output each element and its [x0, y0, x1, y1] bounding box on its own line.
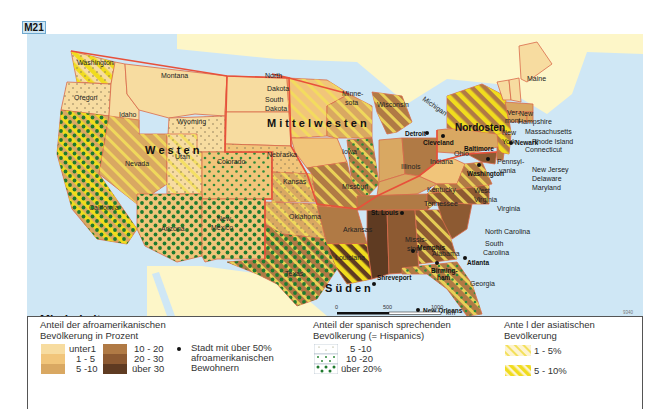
legend-hispanic-title-1: Anteil der spanisch sprechenden: [313, 319, 451, 330]
label-arkansas: Arkansas: [343, 226, 373, 233]
region-label-nordosten: Nordosten: [455, 122, 505, 133]
label-maine: Maine: [527, 75, 546, 82]
label-massachusetts: Massachusetts: [525, 128, 572, 135]
label-arizona: Arizona: [161, 225, 185, 232]
legend-swatch-afro-4: [103, 354, 127, 364]
label-oklahoma: Oklahoma: [289, 213, 321, 220]
label-virginia: Virginia: [497, 205, 520, 213]
city-marker-newark: [509, 141, 513, 145]
label-pennsylvania-1: Pennsyl-: [497, 158, 525, 166]
city-marker-baltimore: [486, 157, 490, 161]
region-label-sueden: S ü d e n: [325, 282, 371, 294]
label-nevada: Nevada: [125, 160, 149, 167]
region-label-westen: W e s t e n: [145, 144, 200, 156]
label-north-dakota-1: North: [265, 72, 282, 79]
map-code: 9340: [623, 310, 634, 315]
label-mississippi-1: Missis-: [405, 236, 427, 243]
figure-label: M21: [22, 21, 46, 34]
label-maryland: Maryland: [532, 184, 561, 192]
label-oregon: Oregon: [74, 94, 97, 102]
label-wisconsin: Wisconsin: [377, 101, 409, 108]
label-utah: Utah: [175, 153, 190, 160]
city-label-memphis: Memphis: [417, 244, 446, 252]
label-alabama: Alabama: [432, 250, 460, 257]
label-iowa: Iowa: [342, 148, 357, 155]
scale-tick-1000: 1000: [431, 304, 443, 310]
label-north-dakota-2: Dakota: [267, 85, 289, 92]
map-canvas: W e s t e n M i t t e l w e s t e n S ü …: [27, 34, 643, 316]
legend-asian-title-2: Bevölkerung: [504, 330, 557, 341]
label-montana: Montana: [161, 72, 188, 79]
city-label-shreveport: Shreveport: [377, 274, 412, 282]
legend-swatch-afro-3: [103, 344, 127, 354]
city-label-birmingham-2: ham: [437, 274, 451, 281]
city-label-newark: Newark: [515, 139, 539, 146]
label-west-virginia-2: Virginia: [474, 196, 497, 204]
legend-afro-label-5: über 30: [132, 364, 164, 374]
city-label-st-louis: St. Louis: [371, 209, 399, 216]
city-label-washington-dc: Washington: [467, 170, 504, 178]
label-new-hampshire-2: Hampshire: [518, 118, 552, 126]
city-label-detroit: Detroit: [405, 130, 427, 137]
label-south-dakota-1: South: [265, 96, 283, 103]
label-new-mexico-2: Mexico: [211, 224, 233, 231]
city-marker-st-louis: [400, 211, 404, 215]
canada-west-land: [177, 34, 242, 46]
label-indiana: Indiana: [430, 158, 453, 165]
city-marker-shreveport: [372, 282, 376, 286]
label-new-york-1: New: [502, 129, 517, 136]
legend-city-marker-icon: [177, 347, 181, 351]
label-new-mexico-1: New: [217, 215, 232, 222]
legend-hispanic-swatches: [314, 344, 338, 374]
state-mississippi: [367, 210, 389, 279]
city-marker-cleveland: [441, 134, 445, 138]
scale-tick-0: 0: [335, 304, 338, 310]
legend-swatch-afro-5: [103, 364, 127, 374]
legend-afro-title-1: Anteil der afroamerikanischen: [40, 319, 166, 330]
label-idaho: Idaho: [119, 111, 137, 118]
legend: Anteil der afroamerikanischen Bevölkerun…: [28, 316, 642, 409]
label-south-dakota-2: Dakota: [265, 105, 287, 112]
label-new-jersey: New Jersey: [532, 166, 569, 174]
city-marker-birmingham: [435, 261, 439, 265]
scale-unit: km: [446, 309, 456, 316]
label-colorado: Colorado: [217, 158, 246, 165]
city-label-cleveland: Cleveland: [423, 139, 454, 146]
label-wyoming: Wyoming: [177, 118, 206, 126]
legend-swatch-afro-0: [41, 344, 65, 354]
label-south-carolina-1: South: [485, 240, 503, 247]
label-delaware: Delaware: [532, 175, 562, 182]
city-label-atlanta: Atlanta: [467, 259, 489, 266]
legend-asian-label-1: 5 - 10%: [534, 366, 567, 376]
legend-swatch-afro-1: [41, 354, 65, 364]
legend-hispanic-title-2: Bevölkerung (= Hispanics): [313, 330, 424, 341]
legend-asian-label-0: 1 - 5%: [534, 346, 561, 356]
legend-afro-label-2: 5 -10: [76, 364, 98, 374]
label-georgia: Georgia: [470, 280, 495, 288]
label-california: California: [89, 204, 119, 211]
label-missouri: Missouri: [342, 183, 369, 190]
city-marker-washington-dc: [477, 163, 481, 167]
region-label-mittelwesten: M i t t e l w e s t e n: [267, 117, 367, 129]
state-new-hampshire: [509, 78, 521, 102]
label-nebraska: Nebraska: [267, 151, 297, 158]
label-minnesota-1: Minne-: [342, 90, 364, 97]
legend-city-line-3: Bewohnern: [191, 363, 239, 373]
city-label-baltimore: Baltimore: [464, 145, 494, 152]
label-north-carolina: North Carolina: [485, 228, 530, 235]
label-minnesota-2: sota: [345, 99, 358, 106]
legend-swatch-afro-2: [41, 364, 65, 374]
label-washington: Washington: [77, 59, 114, 67]
legend-hispanic-label-2: über 20%: [341, 364, 382, 374]
legend-asian-title-1: Ante l der asiatischen: [504, 319, 595, 330]
label-kentucky: Kentucky: [427, 186, 456, 194]
label-new-hampshire-1: New: [519, 110, 534, 117]
legend-asian-swatches: [505, 345, 531, 377]
label-west-virginia-1: West: [474, 187, 490, 194]
city-marker-new-orleans: [416, 308, 420, 312]
city-marker-memphis: [411, 249, 415, 253]
label-connecticut: Connecticut: [525, 146, 562, 153]
legend-afro-title-2: Bevölkerung in Prozent: [40, 330, 138, 341]
label-kansas: Kansas: [283, 178, 307, 185]
label-tennessee: Tennessee: [424, 200, 458, 207]
